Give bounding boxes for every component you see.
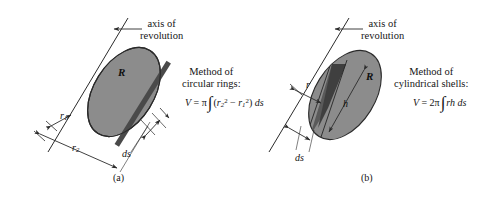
formula-differential: ds bbox=[458, 97, 467, 108]
panel-a-caption: (a) bbox=[113, 172, 124, 184]
panel-b-caption: (b) bbox=[361, 172, 373, 184]
integral-sign: ∫ bbox=[441, 93, 446, 112]
region-label-R: R bbox=[118, 66, 125, 78]
method-line-1: Method of bbox=[394, 66, 468, 78]
method-label: Method of cylindrical shells: bbox=[394, 66, 468, 90]
region-label-R: R bbox=[366, 70, 373, 82]
r2-extension-tick-left bbox=[34, 131, 45, 141]
ds-label: ds bbox=[295, 152, 304, 163]
axis-of-revolution-label: axis of revolution bbox=[140, 18, 183, 42]
method-line-2: circular rings: bbox=[182, 78, 241, 90]
formula-equals: = bbox=[194, 97, 200, 108]
ds-extension-line-left bbox=[296, 126, 301, 150]
region-ellipse bbox=[294, 38, 397, 153]
axis-label-line-1: axis of bbox=[361, 18, 404, 30]
integral-sign: ∫ bbox=[208, 93, 213, 112]
formula-integrand: rh bbox=[446, 97, 455, 108]
r2-label: r2 bbox=[72, 142, 79, 153]
axis-label-line-1: axis of bbox=[140, 18, 183, 30]
axis-label-line-2: revolution bbox=[140, 30, 183, 42]
volume-of-revolution-figure: axis of revolution R Method of circular … bbox=[0, 0, 495, 199]
r2-sub: 2 bbox=[76, 146, 79, 153]
r-label: r bbox=[306, 79, 310, 90]
h-label: h bbox=[343, 98, 348, 109]
panel-cylindrical-shells: axis of revolution R r h ds Method of cy… bbox=[248, 0, 495, 199]
ds-extension-line-right bbox=[309, 130, 314, 152]
ds-label: ds bbox=[122, 148, 131, 159]
edge-arrow bbox=[160, 108, 169, 118]
r1-label: r1 bbox=[60, 110, 67, 121]
method-line-2: cylindrical shells: bbox=[394, 78, 468, 90]
formula-coefficient: 2π bbox=[430, 97, 440, 108]
method-label: Method of circular rings: bbox=[182, 66, 241, 90]
formula-equals: = bbox=[421, 97, 427, 108]
formula-lhs: V bbox=[413, 97, 419, 108]
r1-sub: 1 bbox=[64, 114, 67, 121]
axis-of-revolution-label: axis of revolution bbox=[361, 18, 404, 42]
r-extension-tick bbox=[290, 84, 302, 95]
method-line-1: Method of bbox=[182, 66, 241, 78]
axis-label-line-2: revolution bbox=[361, 30, 404, 42]
ds-leader-line bbox=[131, 126, 148, 152]
r1-extension-tick bbox=[46, 121, 57, 131]
formula-coefficient: π bbox=[202, 97, 207, 108]
panel-circular-rings: axis of revolution R Method of circular … bbox=[0, 0, 247, 199]
volume-formula-shells: V = 2π∫rh ds bbox=[413, 97, 466, 109]
